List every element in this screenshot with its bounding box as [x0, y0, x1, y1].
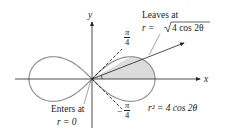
y-axis-label: y	[88, 10, 92, 20]
x-axis-label: x	[204, 74, 208, 84]
leaves-label-r: r =	[142, 23, 154, 33]
enters-label-line1: Enters at	[51, 104, 85, 114]
angle-lower-label: π 4	[124, 101, 130, 120]
leaves-label-sqrt: 4 cos 2θ	[172, 23, 203, 33]
leaves-label-line1: Leaves at	[142, 10, 178, 20]
enters-label-line2: r = 0	[57, 117, 77, 127]
angle-upper-label: π 4	[124, 28, 130, 47]
ray-neg-pi-over-4	[92, 79, 122, 109]
lemniscate-diagram	[0, 0, 227, 136]
curve-equation-label: r² = 4 cos 2θ	[148, 103, 197, 113]
sqrt-sign	[164, 22, 171, 32]
angle-lower-sign: −	[117, 107, 122, 117]
leaves-pointer	[149, 34, 160, 55]
